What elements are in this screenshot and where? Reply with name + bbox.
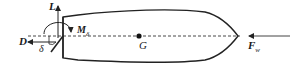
thrust-label: Fw [248,40,260,54]
center-of-gravity-label: G [139,40,147,51]
deflection-angle-label: δ [39,44,44,54]
drag-label: D [19,36,27,47]
moment-label: Mδ [77,25,89,38]
moment-symbol: M [77,24,86,35]
thrust-subscript: w [255,46,260,54]
free-body-diagram: L Mδ D δ G Fw [0,0,308,72]
moment-subscript: δ [86,30,89,38]
center-of-gravity-dot [136,33,141,38]
diagram-canvas [0,0,308,72]
control-fin [51,36,63,52]
lift-label: L [49,1,56,12]
